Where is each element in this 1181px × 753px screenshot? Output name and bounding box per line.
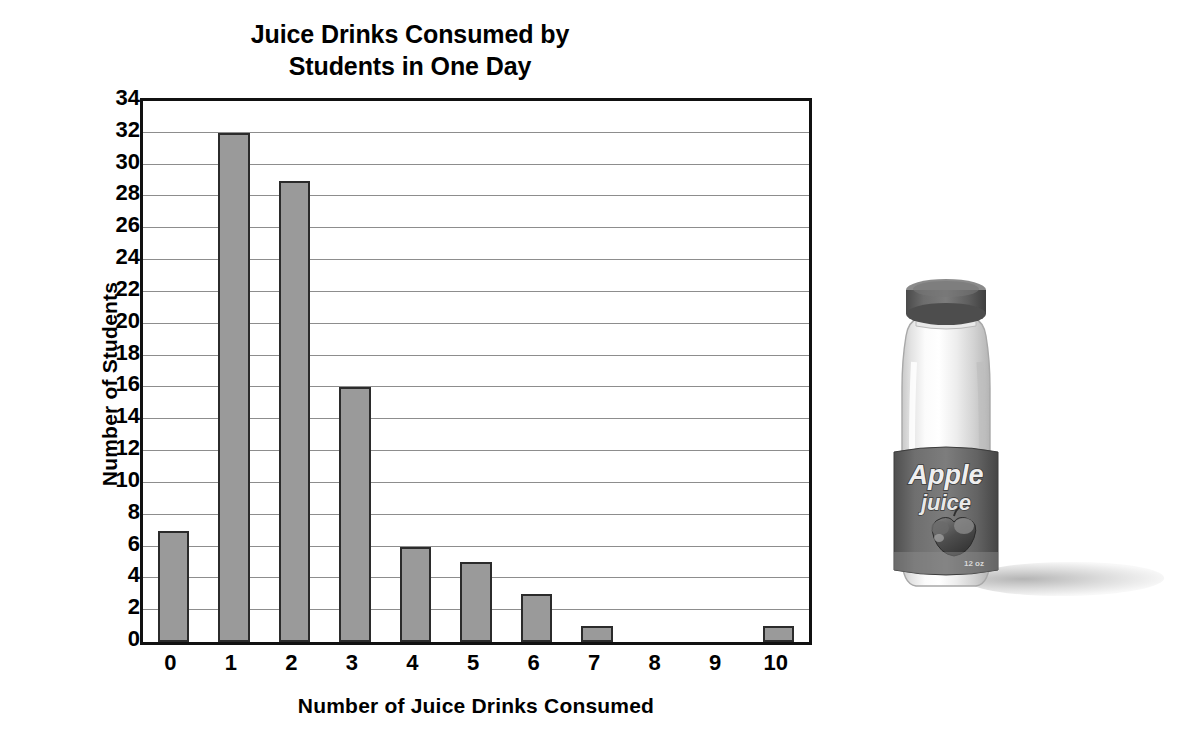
bottle-label: Apple juice 12 oz <box>890 447 1002 575</box>
y-tick-label: 20 <box>96 310 140 332</box>
chart-page: Juice Drinks Consumed by Students in One… <box>0 0 1181 753</box>
x-tick-label: 2 <box>261 652 321 674</box>
y-tick-label: 12 <box>96 437 140 459</box>
bar <box>460 562 491 642</box>
x-axis-title: Number of Juice Drinks Consumed <box>140 694 812 718</box>
x-tick-label: 4 <box>382 652 442 674</box>
bar <box>279 181 310 642</box>
bar <box>763 626 794 642</box>
x-tick-label: 5 <box>443 652 503 674</box>
bottle-graphic: Apple juice 12 oz <box>876 270 1016 620</box>
y-tick-label: 22 <box>96 278 140 300</box>
y-tick-label: 26 <box>96 214 140 236</box>
y-tick-label: 34 <box>96 87 140 109</box>
x-tick-label: 10 <box>746 652 806 674</box>
y-tick-label: 10 <box>96 469 140 491</box>
y-tick-label: 6 <box>96 533 140 555</box>
apple-juice-bottle-illustration: Apple juice 12 oz <box>850 270 1180 650</box>
bottle-cap <box>906 279 986 325</box>
y-tick-label: 28 <box>96 182 140 204</box>
bars-layer <box>143 101 809 642</box>
x-tick-label: 3 <box>322 652 382 674</box>
y-tick-label: 30 <box>96 151 140 173</box>
y-tick-label: 0 <box>96 628 140 650</box>
bar <box>339 387 370 642</box>
x-tick-label: 0 <box>140 652 200 674</box>
bar <box>581 626 612 642</box>
y-tick-label: 8 <box>96 501 140 523</box>
bar-chart-figure: Juice Drinks Consumed by Students in One… <box>0 0 840 753</box>
plot-area <box>140 98 812 645</box>
x-axis-tick-labels: 012345678910 <box>140 652 812 686</box>
label-volume: 12 oz <box>964 559 984 568</box>
chart-title: Juice Drinks Consumed by Students in One… <box>140 18 680 82</box>
y-tick-label: 4 <box>96 564 140 586</box>
y-tick-label: 32 <box>96 119 140 141</box>
bar <box>218 133 249 642</box>
y-tick-label: 2 <box>96 596 140 618</box>
bar <box>158 531 189 642</box>
y-tick-label: 14 <box>96 405 140 427</box>
x-tick-label: 1 <box>201 652 261 674</box>
x-tick-label: 9 <box>685 652 745 674</box>
x-tick-label: 6 <box>504 652 564 674</box>
label-line1: Apple <box>907 460 983 490</box>
y-tick-label: 16 <box>96 373 140 395</box>
x-tick-label: 7 <box>564 652 624 674</box>
label-line2: juice <box>918 490 971 515</box>
bar <box>521 594 552 642</box>
y-axis-tick-labels: 0246810121416182022242628303234 <box>96 98 140 645</box>
bar <box>400 547 431 642</box>
y-tick-label: 18 <box>96 342 140 364</box>
x-tick-label: 8 <box>625 652 685 674</box>
y-tick-label: 24 <box>96 246 140 268</box>
